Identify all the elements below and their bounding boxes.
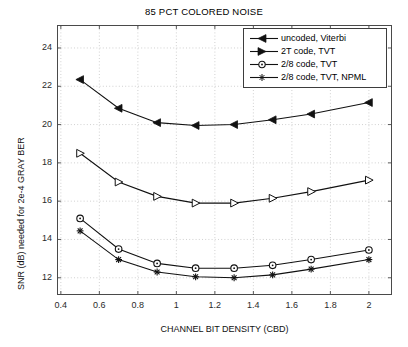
legend-item: uncoded, Viterbi	[247, 32, 382, 45]
x-tick-label: 1.2	[200, 300, 230, 310]
y-tick-label: 24	[26, 42, 52, 52]
x-tick-label: 0.4	[46, 300, 76, 310]
y-tick-label: 20	[26, 119, 52, 129]
data-point	[192, 199, 200, 207]
series-2	[77, 215, 372, 271]
data-point	[77, 227, 84, 234]
data-point	[154, 260, 161, 267]
data-point	[308, 188, 316, 196]
data-point	[191, 122, 199, 130]
series-3	[77, 227, 373, 281]
data-point	[365, 256, 372, 263]
data-point	[230, 121, 238, 129]
data-point	[115, 178, 123, 186]
data-point	[77, 215, 84, 222]
figure: 85 PCT COLORED NOISE SNR (dB) needed for…	[0, 0, 408, 347]
data-point	[366, 247, 373, 254]
y-tick-label: 12	[26, 272, 52, 282]
data-point	[154, 269, 161, 276]
data-point	[192, 273, 199, 280]
data-point	[308, 256, 315, 263]
right-triangle-marker-icon	[247, 45, 281, 58]
data-point	[76, 76, 84, 84]
x-tick-label: 1.8	[315, 300, 345, 310]
x-axis-label: CHANNEL BIT DENSITY (CBD)	[57, 324, 392, 334]
data-point	[153, 119, 161, 127]
data-point	[269, 271, 276, 278]
x-tick-label: 1	[161, 300, 191, 310]
y-tick-label: 22	[26, 80, 52, 90]
data-point	[231, 265, 238, 272]
star-marker-icon	[247, 71, 281, 84]
left-triangle-marker-icon	[247, 32, 281, 45]
x-tick-label: 0.6	[84, 300, 114, 310]
data-point	[231, 274, 238, 281]
data-point	[269, 262, 276, 269]
legend-label: 2T code, TVT	[281, 45, 335, 58]
y-tick-label: 18	[26, 157, 52, 167]
legend-item: 2/8 code, TVT, NPML	[247, 71, 382, 84]
x-tick-label: 1.4	[238, 300, 268, 310]
legend-label: 2/8 code, TVT	[281, 58, 337, 71]
x-tick-label: 2	[354, 300, 384, 310]
data-point	[365, 176, 373, 184]
data-point	[231, 199, 239, 207]
legend-item: 2/8 code, TVT	[247, 58, 382, 71]
legend-item: 2T code, TVT	[247, 45, 382, 58]
legend-label: 2/8 code, TVT, NPML	[281, 71, 366, 84]
data-point	[268, 116, 276, 124]
circle-marker-icon	[247, 58, 281, 71]
x-tick-label: 0.8	[123, 300, 153, 310]
x-tick-label: 1.6	[277, 300, 307, 310]
data-point	[115, 256, 122, 263]
legend-label: uncoded, Viterbi	[281, 32, 346, 45]
series-1	[77, 149, 373, 207]
y-tick-label: 14	[26, 233, 52, 243]
data-point	[154, 192, 162, 200]
y-axis-label: SNR (dB) needed for 2e-4 GRAY BER	[16, 137, 26, 290]
data-point	[308, 266, 315, 273]
data-point	[115, 246, 122, 253]
y-tick-label: 16	[26, 195, 52, 205]
legend: uncoded, Viterbi 2T code, TVT 2/8 code, …	[243, 28, 387, 88]
data-point	[307, 110, 315, 118]
data-point	[192, 265, 199, 272]
data-point	[365, 99, 373, 107]
